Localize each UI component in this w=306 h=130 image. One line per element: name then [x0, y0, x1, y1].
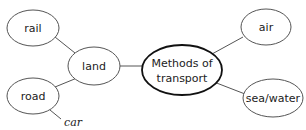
node-air: air [241, 9, 291, 45]
node-rail-label: rail [24, 22, 41, 35]
node-sea-water-label: sea/water [246, 92, 301, 105]
connector-land-road [55, 78, 77, 87]
central-label-line1: Methods of [151, 57, 213, 70]
node-road-label: road [21, 90, 46, 103]
node-rail: rail [7, 10, 59, 46]
connector-central-air [212, 37, 243, 54]
node-land-label: land [82, 60, 106, 73]
connector-road-car [50, 110, 61, 119]
node-sea-water: sea/water [243, 79, 303, 117]
node-air-label: air [259, 21, 274, 34]
central-label-line2: transport [157, 72, 209, 85]
connector-land-rail [55, 37, 75, 53]
leaf-car-label: car [64, 116, 83, 129]
node-road: road [7, 78, 59, 114]
connector-central-sea [214, 82, 245, 94]
central-node: Methods of transport [142, 45, 222, 95]
node-land: land [68, 47, 120, 85]
mind-map-diagram: Methods of transport air sea/water land … [0, 0, 306, 130]
